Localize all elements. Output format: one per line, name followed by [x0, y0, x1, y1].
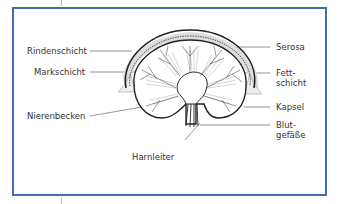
- label-blutgefaesse-line2: gefäße: [276, 130, 305, 140]
- label-fettschicht-line1: Fett-: [276, 68, 295, 78]
- label-rindenschicht: Rindenschicht: [27, 46, 87, 56]
- label-fettschicht-line2: schicht: [276, 78, 306, 88]
- label-nierenbecken: Nierenbecken: [27, 111, 85, 121]
- label-harnleiter: Harnleiter: [132, 152, 174, 162]
- label-blutgefaesse-line1: Blut-: [276, 120, 296, 130]
- label-serosa: Serosa: [276, 42, 305, 52]
- label-markschicht: Markschicht: [34, 67, 85, 77]
- label-kapsel: Kapsel: [276, 102, 304, 112]
